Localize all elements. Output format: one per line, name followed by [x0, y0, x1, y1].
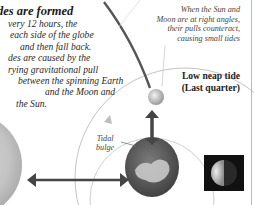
body-line: the Sun. — [0, 98, 125, 109]
tide-label-line: (Last quarter) — [182, 82, 240, 94]
caption-line: their pulls counteract, — [120, 24, 240, 34]
body-line: each side of the globe — [0, 29, 125, 40]
body-line: between the spinning Earth — [0, 75, 125, 86]
body-line: and then fall back. — [0, 41, 125, 52]
bulge-label-line: bulge — [96, 143, 114, 152]
section-heading: des are formed — [0, 4, 73, 19]
body-line: rying gravitational pull — [0, 64, 125, 75]
caption-line: causing small tides — [120, 34, 240, 44]
tide-label-line: Low neap tide — [182, 70, 240, 82]
body-line: and the Moon and — [0, 86, 125, 97]
caption-leader — [162, 45, 165, 86]
sun-icon — [0, 113, 22, 205]
arrow-head-left — [27, 173, 36, 187]
tidal-bulge-label: Tidal bulge — [96, 134, 114, 152]
tide-diagram: des are formed very 12 hours, the each s… — [0, 0, 254, 205]
orbit-direction-arrow — [104, 115, 112, 124]
arrow-head-up — [145, 110, 159, 118]
moon-icon — [148, 89, 164, 105]
body-line: very 12 hours, the — [0, 18, 125, 29]
right-angle-caption: When the Sun and Moon are at right angle… — [120, 5, 240, 43]
bulge-label-line: Tidal — [96, 134, 114, 143]
page-divider — [251, 0, 252, 205]
neap-tide-label: Low neap tide (Last quarter) — [182, 70, 240, 93]
section-body: very 12 hours, the each side of the glob… — [0, 18, 125, 109]
caption-line: Moon are at right angles, — [120, 15, 240, 25]
body-line: des are caused by the — [0, 52, 125, 63]
caption-line: When the Sun and — [120, 5, 240, 15]
